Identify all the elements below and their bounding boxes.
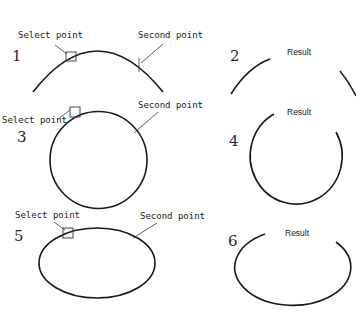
arc-segment-right [340, 71, 356, 96]
second-leader-line [141, 44, 163, 63]
second-point-label: Second point [140, 211, 205, 221]
panel-4: 4 Result [229, 107, 342, 204]
result-label: Result [285, 228, 310, 238]
second-leader-line [133, 223, 157, 238]
select-point-label: Select point [18, 30, 83, 40]
panel-number: 1 [12, 47, 22, 65]
arc [33, 51, 163, 92]
circle-with-gap [250, 114, 342, 204]
second-leader-line [134, 112, 158, 133]
select-point-label: Select point [15, 210, 80, 220]
second-point-label: Second point [138, 30, 203, 40]
panel-number: 4 [229, 132, 239, 150]
panel-number: 3 [17, 128, 27, 146]
panel-2: 2 Result [230, 47, 356, 96]
panel-5: 5 Select point Second point [14, 210, 205, 298]
panel-3: 3 Select point Second point [2, 100, 203, 209]
ellipse-with-gap [235, 234, 351, 305]
select-leader-line [55, 45, 67, 54]
panel-number: 6 [228, 232, 238, 250]
ellipse [39, 228, 155, 298]
panel-number: 2 [230, 47, 240, 65]
second-point-label: Second point [138, 100, 203, 110]
panel-1: 1 Select point Second point [12, 30, 203, 92]
panel-number: 5 [14, 227, 24, 245]
circle [50, 112, 147, 209]
break-command-diagram: 1 Select point Second point 2 Result 3 S… [0, 0, 356, 313]
result-label: Result [287, 107, 312, 117]
result-label: Result [287, 47, 312, 57]
panel-6: 6 Result [228, 228, 351, 305]
